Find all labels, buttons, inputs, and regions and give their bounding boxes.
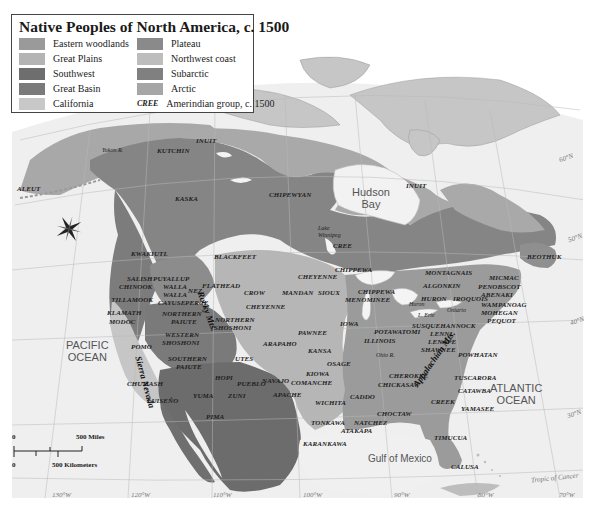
group-label-zuni: ZUNI <box>228 392 246 400</box>
swatch-southwest <box>19 68 45 80</box>
swatch-eastern-woodlands <box>19 38 45 50</box>
graticule-label: 70°W <box>559 491 575 499</box>
legend-item-great-basin: Great Basin <box>19 82 137 95</box>
group-label-northern: NORTHERN <box>215 316 255 324</box>
group-label-beothuk: BEOTHUK <box>527 253 562 261</box>
group-label-puyallup: PUYALLUP <box>153 275 189 283</box>
legend-grid: Eastern woodlands Plateau Great Plains N… <box>19 37 247 110</box>
group-label-western: WESTERN <box>165 331 199 339</box>
group-label-kutchin: KUTCHIN <box>157 147 190 155</box>
legend-label: Arctic <box>171 83 196 94</box>
group-label-kwakiutl: KWAKIUTL <box>131 250 168 258</box>
group-label-cayuse: CAYUSE <box>158 299 185 307</box>
group-label-cheyenne: CHEYENNE <box>246 303 285 311</box>
water-body-name: PACIFIC <box>66 339 109 351</box>
scale-bar: 0 500 Miles 0 500 Kilometers <box>12 441 102 471</box>
swatch-great-plains <box>19 53 45 65</box>
group-label-mandan: MANDAN <box>282 289 313 297</box>
group-label-yamasee: YAMASEE <box>461 405 494 413</box>
group-label-shoshoni: SHOSHONI <box>214 324 251 332</box>
water-body-label: ATLANTICOCEAN <box>490 382 542 406</box>
swatch-great-basin <box>19 83 45 95</box>
group-label-chipewyan: CHIPEWYAN <box>269 191 311 199</box>
graticule-label: 130°W <box>52 491 71 499</box>
group-label-pawnee: PAWNEE <box>298 329 327 337</box>
group-label-tonkawa: TONKAWA <box>311 419 345 427</box>
group-label-algonkin: ALGONKIN <box>423 282 460 290</box>
water-feature-label: Lake <box>318 225 330 231</box>
group-label-chippewa: CHIPPEWA <box>335 266 372 274</box>
group-label-osage: OSAGE <box>327 360 351 368</box>
group-label-menominee: MENOMINEE <box>345 296 390 304</box>
water-body-name-line2: Bay <box>352 198 390 210</box>
group-label-inuit: INUIT <box>196 137 216 145</box>
scale-km-label: 500 Kilometers <box>52 461 97 469</box>
swatch-subarctic <box>137 68 163 80</box>
group-label-navajo: NAVAJO <box>262 377 289 385</box>
water-feature-label: Winnipeg <box>318 232 341 238</box>
legend-label: Northwest coast <box>171 53 236 64</box>
graticule-label: 80°W <box>478 491 494 499</box>
group-label-wichita: WICHITA <box>315 399 346 407</box>
group-label-karankawa: KARANKAWA <box>303 440 347 448</box>
group-label-micmac: MICMAC <box>489 274 519 282</box>
group-label-caddo: CADDO <box>350 393 375 401</box>
group-label-creek: CREEK <box>431 398 455 406</box>
group-label-walla: WALLA <box>163 283 187 291</box>
group-label-choctaw: CHOCTAW <box>377 410 412 418</box>
group-label-illinois: ILLINOIS <box>364 337 396 345</box>
legend-label: Great Basin <box>53 83 101 94</box>
legend-item-california: California <box>19 97 137 110</box>
group-label-iowa: IOWA <box>340 320 359 328</box>
scale-miles-label: 500 Miles <box>76 433 105 441</box>
swatch-arctic <box>137 83 163 95</box>
legend-item-northwest-coast: Northwest coast <box>137 52 255 65</box>
water-body-name-line2: OCEAN <box>490 394 542 406</box>
legend-title: Native Peoples of North America, c. 1500 <box>19 18 247 36</box>
group-label-wampanoag: WAMPANOAG <box>481 301 527 309</box>
legend-label: Eastern woodlands <box>53 38 129 49</box>
water-feature-label: Ohio R. <box>376 352 395 358</box>
group-label-atakapa: ATAKAPA <box>341 427 372 435</box>
group-label-calusa: CALUSA <box>451 463 479 471</box>
legend-label: Plateau <box>171 38 200 49</box>
scale-zero-miles: 0 <box>12 433 16 441</box>
group-label-cheyenne: CHEYENNE <box>298 273 337 281</box>
group-label-pequot: PEQUOT <box>487 317 516 325</box>
group-label-inuit: INUIT <box>406 182 426 190</box>
group-label-walla: WALLA <box>163 291 187 299</box>
group-label-penobscot: PENOBSCOT <box>478 283 521 291</box>
swatch-california <box>19 98 45 110</box>
compass-rose-icon <box>54 214 84 244</box>
group-label-modoc: MODOC <box>109 318 136 326</box>
group-label-chinook: CHINOOK <box>119 283 152 291</box>
group-label-southern: SOUTHERN <box>168 355 207 363</box>
graticule-label: 110°W <box>213 491 232 499</box>
swatch-northwest-coast <box>137 53 163 65</box>
group-label-pomo: POMO <box>131 343 152 351</box>
group-label-hopi: HOPI <box>215 374 233 382</box>
group-label-salish: SALISH <box>127 275 153 283</box>
group-label-pima: PIMA <box>206 413 224 421</box>
water-body-label: HudsonBay <box>352 186 390 210</box>
group-label-paiute: PAIUTE <box>176 363 202 371</box>
legend-item-plateau: Plateau <box>137 37 255 50</box>
group-label-utes: UTES <box>235 355 253 363</box>
swatch-plateau <box>137 38 163 50</box>
group-label-klamath: KLAMATH <box>107 309 142 317</box>
water-feature-label: Huron <box>409 301 424 307</box>
legend-item-arctic: Arctic <box>137 82 255 95</box>
water-feature-label: Yukon R. <box>102 147 123 153</box>
group-label-timucua: TIMUCUA <box>434 434 467 442</box>
group-label-yuma: YUMA <box>193 392 214 400</box>
group-label-crow: CROW <box>244 289 265 297</box>
group-label-sioux: SIOUX <box>318 289 340 297</box>
group-label-arapaho: ARAPAHO <box>263 340 297 348</box>
group-label-flathead: FLATHEAD <box>202 282 240 290</box>
water-body-label: PACIFICOCEAN <box>66 339 109 363</box>
group-label-cree: CREE <box>333 242 352 250</box>
map-legend: Native Peoples of North America, c. 1500… <box>11 14 254 113</box>
group-label-aleut: ALEUT <box>17 185 40 193</box>
legend-label: Subarctic <box>171 68 209 79</box>
group-label-tillamook: TILLAMOOK <box>111 296 153 304</box>
